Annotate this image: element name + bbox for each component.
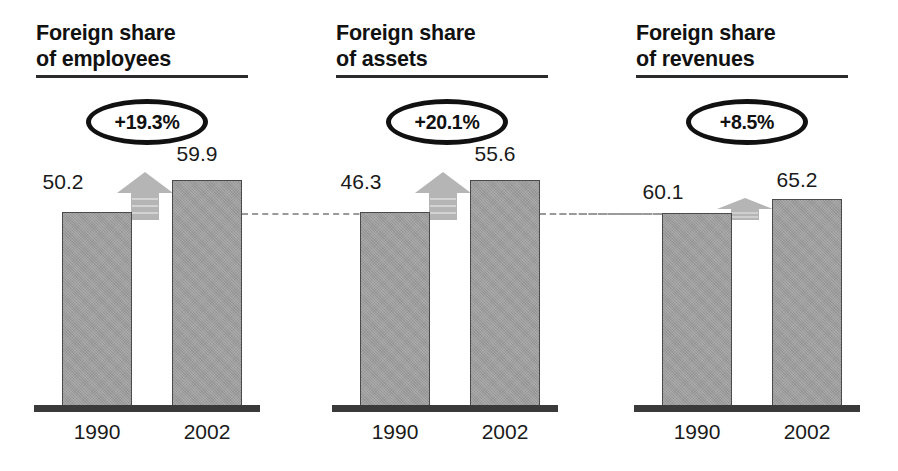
bar-value-2002: 65.2 xyxy=(757,168,837,192)
plot-area: 46.3 55.6 1990 2002 xyxy=(300,0,600,471)
bar-1990 xyxy=(360,212,430,408)
bar-value-1990: 60.1 xyxy=(623,180,703,204)
panel-foreign-share-of-revenues: Foreign share of revenues +8.5% 60.1 65.… xyxy=(600,0,898,471)
bar-2002 xyxy=(772,199,842,408)
year-label-2002: 2002 xyxy=(762,420,852,444)
plot-area: 50.2 59.9 1990 200 xyxy=(0,0,300,471)
bar-1990 xyxy=(62,212,132,408)
axis-baseline xyxy=(634,405,860,412)
bar-2002 xyxy=(172,180,242,408)
figure-root: Foreign share of employees +19.3% 50.2 5… xyxy=(0,0,898,471)
axis-baseline xyxy=(332,405,558,412)
plot-area: 60.1 65.2 1990 2002 xyxy=(600,0,898,471)
year-label-2002: 2002 xyxy=(162,420,252,444)
year-label-1990: 1990 xyxy=(350,420,440,444)
year-label-1990: 1990 xyxy=(652,420,742,444)
panel-foreign-share-of-employees: Foreign share of employees +19.3% 50.2 5… xyxy=(0,0,300,471)
bar-value-2002: 59.9 xyxy=(157,142,237,166)
guide-dashed-line-bridge xyxy=(540,213,662,215)
bar-1990 xyxy=(662,213,732,408)
year-label-2002: 2002 xyxy=(460,420,550,444)
year-label-1990: 1990 xyxy=(52,420,142,444)
bar-value-2002: 55.6 xyxy=(455,142,535,166)
bar-2002 xyxy=(470,180,540,408)
axis-baseline xyxy=(34,405,260,412)
bar-value-1990: 50.2 xyxy=(23,170,103,194)
bar-value-1990: 46.3 xyxy=(321,170,401,194)
panel-foreign-share-of-assets: Foreign share of assets +20.1% 46.3 55.6 xyxy=(300,0,600,471)
